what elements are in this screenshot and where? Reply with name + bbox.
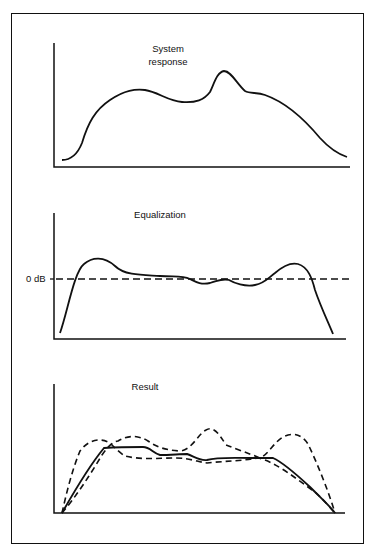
panel-result xyxy=(54,384,345,513)
curve-result-dashed-eq xyxy=(62,440,335,513)
zero-db-label: 0 dB xyxy=(26,273,46,284)
axes-equalization xyxy=(54,213,346,339)
curve-result-solid xyxy=(62,447,335,513)
curve-result-dashed-system xyxy=(62,429,335,513)
title-result: Result xyxy=(110,380,180,393)
curve-system-response xyxy=(62,71,347,160)
axes-result xyxy=(54,384,345,513)
figure-plots xyxy=(0,0,373,552)
curve-equalization xyxy=(60,259,333,334)
title-equalization: Equalization xyxy=(110,208,210,221)
title-system-response: System response xyxy=(130,42,206,68)
panel-equalization xyxy=(50,213,350,339)
